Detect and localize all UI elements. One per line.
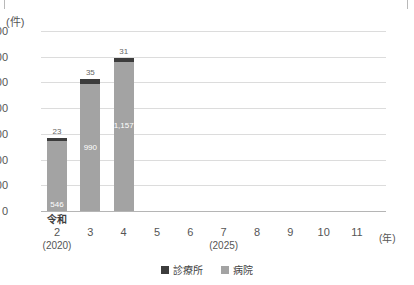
stacked-bar-chart: (件) 02004006008001,0001,2001,40054623990…: [0, 0, 414, 285]
gridline-1400: [41, 31, 386, 32]
bar-segment-clinic[interactable]: [114, 58, 134, 62]
y-axis-tick-label: 0: [0, 206, 8, 217]
gridline-0: [41, 211, 386, 212]
legend-label: 病院: [233, 262, 253, 277]
y-axis-tick-label: 1,400: [0, 26, 8, 37]
y-axis-tick-label: 600: [0, 129, 8, 140]
x-axis-tick-11: 11: [337, 226, 377, 239]
legend-swatch-icon: [221, 266, 229, 274]
bar-value-label-clinic: 23: [41, 128, 73, 136]
legend-swatch-icon: [161, 266, 169, 274]
bar-segment-clinic[interactable]: [80, 79, 100, 84]
bar-value-label-clinic: 31: [108, 48, 140, 56]
plot-area: 02004006008001,0001,2001,40054623990351,…: [41, 31, 386, 211]
bar-value-label-hospital: 1,157: [114, 122, 134, 130]
y-axis-tick-label: 1,200: [0, 52, 8, 63]
y-axis-tick-label: 1,000: [0, 77, 8, 88]
bar-value-label-hospital: 990: [80, 144, 100, 152]
bar-segment-clinic[interactable]: [47, 138, 67, 141]
bar-value-label-clinic: 35: [74, 69, 106, 77]
x-axis-western-year-label: (2020): [37, 239, 77, 252]
bar-value-label-hospital: 546: [47, 201, 67, 209]
x-axis-era-label: 令和: [37, 213, 77, 226]
y-axis-tick-label: 200: [0, 180, 8, 191]
y-axis-unit-label: (件): [6, 13, 24, 29]
y-axis-tick-label: 400: [0, 155, 8, 166]
legend-label: 診療所: [173, 262, 203, 277]
legend-item[interactable]: 病院: [221, 262, 253, 277]
bar-segment-hospital[interactable]: [114, 62, 134, 211]
y-axis-tick-label: 800: [0, 103, 8, 114]
x-axis: (年) 令和2(2020)34567(2025)891011: [41, 213, 386, 253]
legend-item[interactable]: 診療所: [161, 262, 203, 277]
x-axis-year-label: 11: [337, 226, 377, 239]
chart-legend: 診療所病院: [0, 262, 414, 277]
x-axis-western-year-label: (2025): [204, 239, 244, 252]
x-axis-unit-label: (年): [379, 230, 396, 245]
gridline-1200: [41, 57, 386, 58]
